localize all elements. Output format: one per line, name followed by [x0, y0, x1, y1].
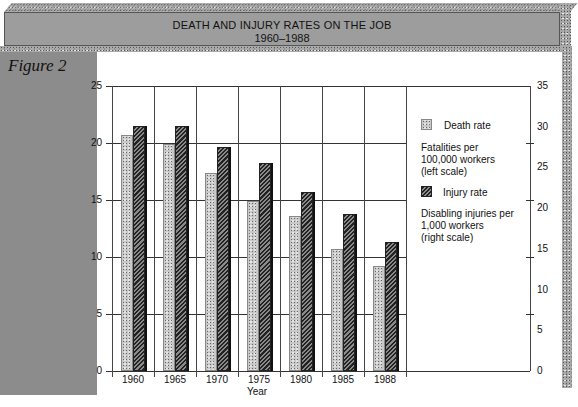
x-axis-title: Year: [237, 386, 277, 397]
injury-rate-swatch-icon: [421, 186, 432, 197]
frame-right-edge: [562, 46, 572, 388]
injury-rate-bar: [385, 242, 397, 371]
death-rate-bar: [163, 144, 175, 371]
x-axis-tick-label: 1960: [113, 374, 153, 385]
x-axis-tick-label: 1965: [155, 374, 195, 385]
legend-death-desc-1: Fatalities per: [421, 142, 478, 154]
gridline: [106, 371, 530, 372]
left-axis-tick-label: 25: [82, 80, 102, 91]
death-rate-swatch-icon: [421, 119, 432, 130]
chart-title: DEATH AND INJURY RATES ON THE JOB: [5, 19, 559, 31]
right-axis-tick: [526, 314, 534, 315]
right-axis-tick-label: 30: [537, 121, 548, 132]
title-banner: DEATH AND INJURY RATES ON THE JOB 1960–1…: [4, 12, 560, 46]
left-axis-tick-label: 5: [82, 308, 102, 319]
right-axis-tick-label: 20: [537, 202, 548, 213]
death-rate-bar: [247, 201, 259, 371]
column-divider: [280, 86, 281, 377]
left-axis-tick-label: 20: [82, 137, 102, 148]
legend-injury-desc-3: (right scale): [421, 232, 473, 244]
left-axis-tick-label: 0: [82, 365, 102, 376]
right-axis-tick-label: 5: [537, 324, 543, 335]
column-divider: [154, 86, 155, 377]
column-divider: [196, 86, 197, 377]
column-divider: [112, 86, 113, 377]
left-axis-tick-label: 15: [82, 194, 102, 205]
left-axis-tick-label: 10: [82, 251, 102, 262]
legend-death-label: Death rate: [444, 120, 491, 132]
right-axis-tick: [526, 143, 534, 144]
injury-rate-bar: [343, 214, 355, 371]
injury-rate-bar: [259, 163, 271, 371]
title-bar-top-edge: [4, 3, 578, 12]
right-axis-tick-label: 25: [537, 161, 548, 172]
figure-side-panel: [0, 52, 97, 395]
gridline: [106, 143, 406, 144]
column-divider: [406, 86, 407, 377]
injury-rate-bar: [301, 192, 313, 371]
death-rate-bar: [121, 135, 133, 371]
death-rate-bar: [205, 173, 217, 371]
injury-rate-bar: [217, 147, 229, 371]
right-axis-tick: [526, 257, 534, 258]
death-rate-bar: [331, 249, 343, 371]
right-axis-tick-label: 10: [537, 284, 548, 295]
right-axis-tick-label: 0: [537, 365, 543, 376]
right-axis-tick-label: 35: [537, 80, 548, 91]
x-axis-tick-label: 1985: [323, 374, 363, 385]
column-divider: [322, 86, 323, 377]
death-rate-bar: [373, 266, 385, 371]
legend-death-desc-2: 100,000 workers: [421, 154, 495, 166]
title-bar-side-edge: [560, 4, 571, 46]
column-divider: [238, 86, 239, 377]
injury-rate-bar: [175, 126, 187, 371]
figure-label: Figure 2: [8, 56, 66, 76]
x-axis-tick-label: 1970: [197, 374, 237, 385]
legend-death-desc-3: (left scale): [421, 166, 467, 178]
right-axis-tick-label: 15: [537, 243, 548, 254]
death-rate-bar: [289, 216, 301, 371]
x-axis-tick-label: 1980: [281, 374, 321, 385]
column-divider: [364, 86, 365, 377]
injury-rate-bar: [133, 126, 145, 371]
legend-injury-desc-2: 1,000 workers: [421, 220, 484, 232]
x-axis-tick-label: 1988: [365, 374, 405, 385]
right-axis-tick: [526, 200, 534, 201]
gridline: [106, 86, 530, 87]
legend-injury-label: Injury rate: [443, 187, 487, 199]
legend-injury-desc-1: Disabling injuries per: [421, 208, 514, 220]
chart-subtitle: 1960–1988: [5, 32, 559, 44]
right-axis-line: [530, 86, 531, 371]
x-axis-tick-label: 1975: [239, 374, 279, 385]
